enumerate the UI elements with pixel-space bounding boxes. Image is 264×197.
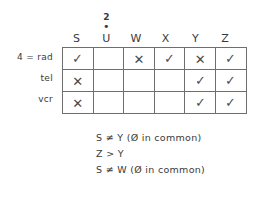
column-header-4-label: Y	[192, 32, 199, 45]
matrix-cell-r0c3[interactable]: ✓	[154, 48, 185, 70]
column-header-0-label: S	[73, 32, 80, 45]
constraint-note-0: S ≠ Y (Ø in common)	[96, 130, 264, 146]
column-header-3-label: X	[162, 32, 170, 45]
matrix-cell-r2c0[interactable]: ✕	[63, 92, 94, 114]
matrix-cell-r0c0[interactable]: ✓	[63, 48, 94, 70]
constraint-note-2: S ≠ W (Ø in common)	[96, 162, 264, 178]
cell-mark-r2c5: ✓	[226, 96, 236, 109]
column-header-5-label: Z	[221, 32, 229, 45]
cell-mark-r0c4: ✕	[195, 53, 206, 66]
matrix-cell-r0c2[interactable]: ✕	[124, 48, 155, 70]
row-label-2: vcr	[0, 89, 58, 110]
row-label-1: tel	[0, 68, 58, 89]
column-header-2: W	[121, 33, 151, 46]
column-header-1-label: U	[102, 32, 111, 45]
cell-mark-r1c4: ✓	[195, 74, 205, 87]
column-header-2-label: W	[130, 32, 141, 45]
matrix-cell-r0c1[interactable]	[93, 48, 124, 70]
matrix-grid: S 2 • U W X Y	[62, 24, 240, 114]
matrix-cell-r2c5[interactable]: ✓	[215, 92, 246, 114]
matrix-cell-r0c5[interactable]: ✓	[215, 48, 246, 70]
cell-mark-r0c0: ✓	[73, 52, 83, 65]
matrix-table: ✓ ✕ ✓ ✕ ✓ ✕ ✓ ✓ ✕	[62, 47, 247, 114]
matrix-cell-r2c4[interactable]: ✓	[185, 92, 216, 114]
row-label-column: 4 = rad tel vcr	[0, 47, 58, 110]
matrix-cell-r0c4[interactable]: ✕	[185, 48, 216, 70]
column-header-0: S	[62, 33, 92, 46]
table-row: ✓ ✕ ✓ ✕ ✓	[63, 48, 247, 70]
matrix-cell-r1c4[interactable]: ✓	[185, 70, 216, 92]
matrix-cell-r2c2[interactable]	[124, 92, 155, 114]
table-row: ✕ ✓ ✓	[63, 70, 247, 92]
cell-mark-r2c0: ✕	[72, 97, 83, 110]
matrix-cell-r1c2[interactable]	[124, 70, 155, 92]
constraint-note-1: Z > Y	[96, 146, 264, 162]
constraint-notes: S ≠ Y (Ø in common) Z > Y S ≠ W (Ø in co…	[96, 130, 264, 178]
matrix-cell-r2c3[interactable]	[154, 92, 185, 114]
row-label-0: 4 = rad	[0, 47, 58, 68]
column-header-4: Y	[181, 33, 211, 46]
column-header-1-dot-icon: •	[92, 24, 122, 30]
matrix-cell-r1c5[interactable]: ✓	[215, 70, 246, 92]
cell-mark-r1c0: ✕	[72, 75, 83, 88]
cell-mark-r0c3: ✓	[164, 52, 174, 65]
matrix-cell-r2c1[interactable]	[93, 92, 124, 114]
cell-mark-r0c2: ✕	[134, 53, 145, 66]
column-header-5: Z	[210, 33, 240, 46]
matrix-cell-r1c0[interactable]: ✕	[63, 70, 94, 92]
matrix-cell-r1c1[interactable]	[93, 70, 124, 92]
table-row: ✕ ✓ ✓	[63, 92, 247, 114]
column-header-1: 2 • U	[92, 33, 122, 46]
column-header-3: X	[151, 33, 181, 46]
diagram-canvas: 4 = rad tel vcr S 2 • U W	[0, 0, 264, 197]
cell-mark-r2c4: ✓	[195, 96, 205, 109]
cell-mark-r0c5: ✓	[226, 52, 236, 65]
column-header-row: S 2 • U W X Y	[62, 24, 240, 46]
cell-mark-r1c5: ✓	[226, 74, 236, 87]
matrix-cell-r1c3[interactable]	[154, 70, 185, 92]
